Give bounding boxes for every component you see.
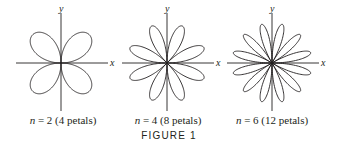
figure-title: FIGURE 1	[141, 130, 197, 141]
x-axis-label: x	[320, 57, 326, 68]
caption-n6: n = 6 (12 petals)	[236, 114, 308, 126]
rose-graph-n2: xy	[16, 3, 115, 111]
y-axis-label: y	[164, 3, 170, 14]
y-axis-label: y	[269, 3, 275, 14]
x-axis-label: x	[215, 57, 221, 68]
caption-n4: n = 4 (8 petals)	[135, 114, 202, 126]
rose-curves-figure: xyxyxy	[0, 0, 338, 149]
rose-graph-n4: xy	[122, 3, 221, 111]
caption-n2: n = 2 (4 petals)	[30, 114, 97, 126]
y-axis-label: y	[58, 3, 64, 14]
x-axis-label: x	[109, 57, 115, 68]
rose-graph-n6: xy	[227, 3, 326, 111]
